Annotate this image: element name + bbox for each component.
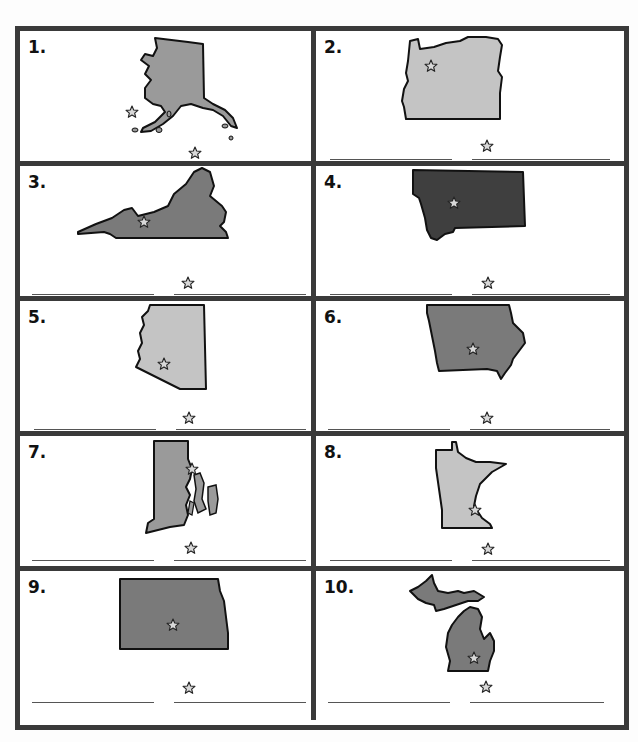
item-number: 3. xyxy=(28,172,46,192)
answer-line-state[interactable] xyxy=(328,429,450,430)
capital-star-icon xyxy=(447,196,461,210)
answer-line-state[interactable] xyxy=(32,560,154,561)
item-number: 1. xyxy=(28,37,46,57)
star-icon xyxy=(479,680,493,694)
alaska-map-icon xyxy=(133,36,248,151)
item-number: 6. xyxy=(324,307,342,327)
item-3: 3. xyxy=(20,166,311,296)
item-number: 8. xyxy=(324,442,342,462)
item-9: 9. xyxy=(20,571,311,720)
virginia-map-icon xyxy=(76,166,236,241)
item-number: 5. xyxy=(28,307,46,327)
item-10: 10. xyxy=(316,571,624,720)
oregon-map-icon xyxy=(402,33,512,123)
answer-line-capital[interactable] xyxy=(470,702,604,703)
answer-line-state[interactable] xyxy=(328,702,450,703)
item-number: 2. xyxy=(324,37,342,57)
item-6: 6. xyxy=(316,301,624,431)
rhode-island-map-icon xyxy=(146,439,226,539)
item-number: 7. xyxy=(28,442,46,462)
answer-line-capital[interactable] xyxy=(174,294,306,295)
star-icon xyxy=(481,276,495,290)
item-number: 4. xyxy=(324,172,342,192)
star-icon xyxy=(481,542,495,556)
answer-line-capital[interactable] xyxy=(472,159,610,160)
answer-line-state[interactable] xyxy=(330,159,452,160)
michigan-map-icon xyxy=(408,573,508,673)
north-dakota-map-icon xyxy=(118,577,230,653)
item-7: 7. xyxy=(20,436,311,566)
answer-line-state[interactable] xyxy=(330,294,452,295)
item-5: 5. xyxy=(20,301,311,431)
star-icon xyxy=(480,139,494,153)
capital-star-icon xyxy=(467,651,481,665)
answer-line-state[interactable] xyxy=(34,429,156,430)
capital-star-icon xyxy=(125,105,139,119)
answer-line-capital[interactable] xyxy=(174,702,306,703)
answer-line-state[interactable] xyxy=(32,702,154,703)
answer-line-capital[interactable] xyxy=(472,294,610,295)
item-number: 10. xyxy=(324,577,354,597)
capital-star-icon xyxy=(166,618,180,632)
montana-map-icon xyxy=(411,168,527,243)
item-4: 4. xyxy=(316,166,624,296)
star-icon xyxy=(182,411,196,425)
capital-star-icon xyxy=(157,357,171,371)
answer-line-capital[interactable] xyxy=(174,560,306,561)
answer-line-capital[interactable] xyxy=(470,429,610,430)
star-icon xyxy=(184,541,198,555)
item-1: 1. xyxy=(20,31,311,161)
capital-star-icon xyxy=(468,503,482,517)
star-icon xyxy=(480,411,494,425)
star-icon xyxy=(188,146,202,160)
item-number: 9. xyxy=(28,577,46,597)
answer-line-capital[interactable] xyxy=(472,560,610,561)
worksheet-frame: 1. 2. xyxy=(15,26,629,730)
arizona-map-icon xyxy=(134,303,210,393)
capital-star-icon xyxy=(466,342,480,356)
capital-star-icon xyxy=(137,215,151,229)
answer-line-state[interactable] xyxy=(330,560,452,561)
item-2: 2. xyxy=(316,31,624,161)
capital-star-icon xyxy=(185,462,199,476)
capital-star-icon xyxy=(424,59,438,73)
item-8: 8. xyxy=(316,436,624,566)
answer-line-state[interactable] xyxy=(32,294,154,295)
star-icon xyxy=(181,276,195,290)
answer-line-capital[interactable] xyxy=(176,429,306,430)
star-icon xyxy=(182,681,196,695)
